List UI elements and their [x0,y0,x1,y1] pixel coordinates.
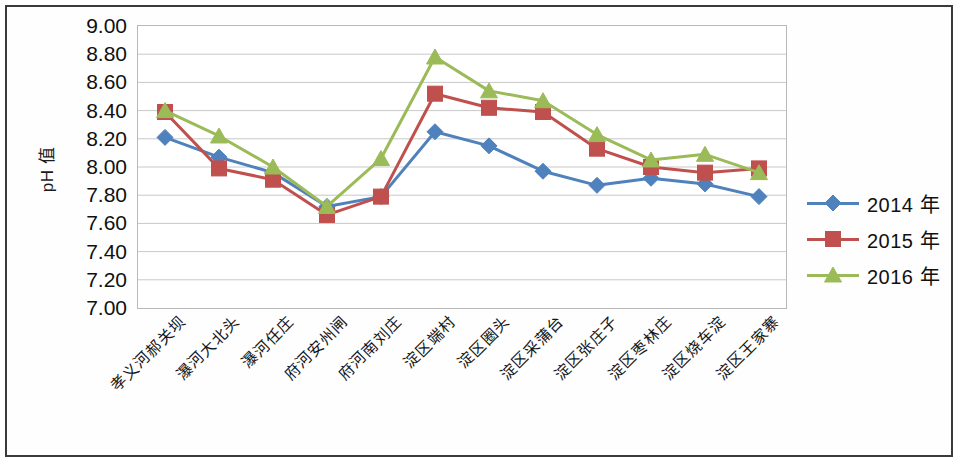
series-line [165,57,759,206]
data-point-marker [825,195,841,211]
legend-item[interactable]: 2015 年 [807,221,947,257]
data-point-marker [481,138,497,154]
data-point-marker [212,161,227,176]
data-point-marker [373,151,390,166]
data-point-marker [535,163,551,179]
data-point-marker [157,129,173,145]
y-axis-tick-label: 9.00 [59,15,127,36]
data-point-marker [751,189,767,205]
y-axis-tick-label: 8.40 [59,99,127,120]
legend-item[interactable]: 2016 年 [807,257,947,293]
data-point-marker [589,127,606,142]
legend-item[interactable]: 2014 年 [807,185,947,221]
chart-screenshot: pH 值 9.008.808.608.408.208.007.807.607.4… [0,0,960,465]
y-axis-tick-label: 8.80 [59,43,127,64]
y-axis-tick-label: 8.60 [59,71,127,92]
legend-marker-icon [822,229,844,249]
data-point-marker [481,83,498,98]
legend-key-triangle-icon [807,266,859,284]
legend-marker-icon [822,265,844,285]
series-2016-年 [157,49,768,213]
legend-label: 2014 年 [859,189,940,218]
data-point-marker [698,165,713,180]
y-axis-tick-label: 7.60 [59,212,127,233]
legend-key-square-icon [807,230,859,248]
y-axis-tick-label: 7.40 [59,240,127,261]
figure-frame: pH 值 9.008.808.608.408.208.007.807.607.4… [5,5,953,457]
plot-area [137,25,787,309]
x-axis-tick-label: 淀区端村 [395,310,460,375]
legend-key-diamond-icon [807,194,859,212]
legend-label: 2016 年 [859,261,940,290]
chart-legend: 2014 年2015 年2016 年 [807,185,947,293]
data-point-marker [826,232,841,247]
data-point-marker [374,189,389,204]
data-point-marker [211,128,228,143]
y-axis-tick-label: 7.20 [59,268,127,289]
legend-marker-icon [822,193,844,213]
data-point-marker [590,141,605,156]
y-axis-title: pH 值 [33,110,58,230]
data-point-marker [482,100,497,115]
data-point-marker [427,49,444,64]
y-axis-tick-label: 8.00 [59,156,127,177]
series-line [165,94,759,215]
legend-label: 2015 年 [859,225,940,254]
y-axis-tick-label: 7.00 [59,297,127,318]
plot-svg [138,26,786,308]
x-axis-tick-labels: 孝义河郝关坝瀑河大北头瀑河任庄府河安州闸府河南刘庄淀区端村淀区圈头淀区采蒲台淀区… [137,310,785,460]
data-point-marker [589,177,605,193]
line-chart: pH 值 9.008.808.608.408.208.007.807.607.4… [7,7,955,459]
data-point-marker [428,86,443,101]
data-point-marker [825,267,842,282]
y-axis-tick-label: 7.80 [59,184,127,205]
y-axis-tick-label: 8.20 [59,127,127,148]
